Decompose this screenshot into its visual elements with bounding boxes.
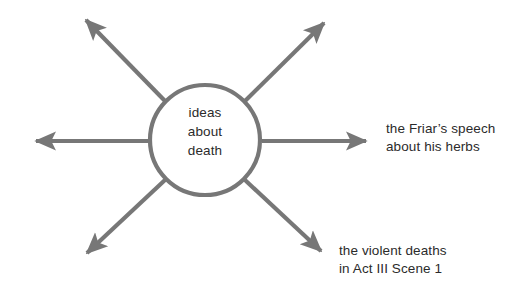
branch-arrow-lower-left bbox=[87, 180, 165, 253]
branch-arrow-upper-right bbox=[245, 23, 324, 101]
diagram-canvas: ideas about death the Friar’s speech abo… bbox=[0, 0, 530, 292]
branch-label-friar-speech-line-2: about his herbs bbox=[386, 138, 495, 156]
branch-label-friar-speech: the Friar’s speech about his herbs bbox=[386, 120, 495, 156]
branch-label-violent-deaths-line-2: in Act III Scene 1 bbox=[339, 260, 447, 278]
branch-arrow-lower-right bbox=[245, 180, 321, 251]
branch-arrow-upper-left bbox=[86, 20, 165, 101]
center-node-circle bbox=[150, 85, 260, 195]
branch-label-friar-speech-line-1: the Friar’s speech bbox=[386, 120, 495, 138]
branch-label-violent-deaths: the violent deaths in Act III Scene 1 bbox=[339, 242, 447, 278]
branch-label-violent-deaths-line-1: the violent deaths bbox=[339, 242, 447, 260]
